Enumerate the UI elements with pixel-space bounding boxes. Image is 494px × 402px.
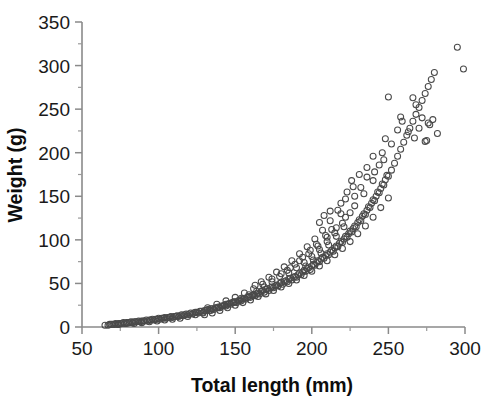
data-point [410, 118, 416, 124]
data-point [370, 153, 376, 159]
data-point [364, 165, 370, 171]
data-point [411, 135, 417, 141]
data-point [347, 210, 353, 216]
data-point [405, 129, 411, 135]
data-point [370, 178, 376, 184]
data-point [327, 208, 333, 214]
data-point [350, 184, 356, 190]
data-point [379, 150, 385, 156]
data-point [388, 167, 394, 173]
y-axis-title: Weight (g) [4, 128, 26, 223]
data-point [338, 200, 344, 206]
data-point [385, 94, 391, 100]
data-point [347, 239, 353, 245]
data-point [381, 157, 387, 163]
data-point [419, 115, 425, 121]
scatter-plot-figure: 050100150200250300350 50100150200250300 … [0, 0, 494, 402]
data-point [434, 131, 440, 137]
y-tick-label: 350 [38, 12, 70, 33]
data-point [332, 252, 338, 258]
data-point [376, 162, 382, 168]
data-point [398, 146, 404, 152]
data-point [364, 174, 370, 180]
y-tick-label: 0 [59, 317, 70, 338]
y-axis-tick-labels: 050100150200250300350 [38, 12, 70, 338]
x-axis-ticks [82, 327, 465, 334]
data-point [352, 193, 358, 199]
data-point [460, 66, 466, 72]
data-point [392, 160, 398, 166]
x-tick-label: 250 [373, 338, 405, 359]
data-point [428, 77, 434, 83]
data-point [395, 127, 401, 133]
data-point [385, 195, 391, 201]
y-axis-ticks [75, 22, 82, 327]
data-point [431, 70, 437, 76]
x-axis-tick-labels: 50100150200250300 [71, 338, 480, 359]
data-point [333, 233, 339, 239]
chart-canvas: 050100150200250300350 50100150200250300 … [0, 0, 494, 402]
data-point [339, 220, 345, 226]
y-tick-label: 300 [38, 56, 70, 77]
data-point [324, 239, 330, 245]
x-tick-label: 300 [449, 338, 481, 359]
x-tick-label: 150 [219, 338, 251, 359]
y-tick-label: 50 [49, 273, 70, 294]
data-point [382, 136, 388, 142]
x-tick-label: 200 [296, 338, 328, 359]
data-point [395, 153, 401, 159]
data-point [378, 205, 384, 211]
data-point [454, 44, 460, 50]
data-point [316, 219, 322, 225]
data-point [358, 185, 364, 191]
data-point [401, 139, 407, 145]
data-point [321, 212, 327, 218]
data-point [425, 83, 431, 89]
x-tick-label: 100 [143, 338, 175, 359]
data-point [407, 125, 413, 131]
data-point [361, 191, 367, 197]
data-point [419, 97, 425, 103]
data-point [315, 243, 321, 249]
data-point [430, 117, 436, 123]
data-point [252, 282, 258, 288]
data-point-group [102, 44, 466, 328]
data-point [413, 111, 419, 117]
axis-group: 050100150200250300350 50100150200250300 [38, 12, 481, 359]
data-point [356, 172, 362, 178]
data-point [372, 169, 378, 175]
data-point [388, 141, 394, 147]
x-axis-title: Total length (mm) [191, 374, 353, 396]
y-tick-label: 150 [38, 186, 70, 207]
data-point [352, 203, 358, 209]
data-point [370, 214, 376, 220]
data-point [355, 231, 361, 237]
data-point [416, 125, 422, 131]
data-point [327, 218, 333, 224]
data-point [341, 224, 347, 230]
data-point [404, 132, 410, 138]
data-point [422, 90, 428, 96]
data-point [326, 242, 332, 248]
data-point [410, 95, 416, 101]
data-point [293, 265, 299, 271]
data-point [344, 189, 350, 195]
data-point [349, 178, 355, 184]
x-tick-label: 50 [71, 338, 92, 359]
y-tick-label: 100 [38, 230, 70, 251]
y-tick-label: 250 [38, 99, 70, 120]
data-point [323, 233, 329, 239]
y-tick-label: 200 [38, 143, 70, 164]
data-point [362, 223, 368, 229]
